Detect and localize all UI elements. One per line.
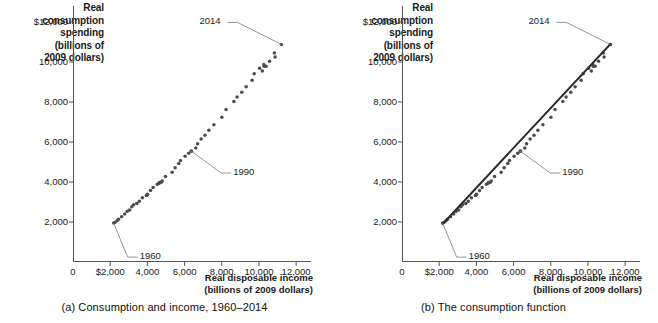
y-tick-label: 10,000	[335, 56, 397, 67]
consumption-function-line	[443, 44, 611, 224]
annotation-label-1990: 1990	[562, 166, 583, 177]
y-tick-label: 4,000	[6, 176, 68, 187]
panel-a: Real consumption spending (billions of 2…	[0, 0, 329, 323]
x-axis-label-a: Real disposable income (billions of 2009…	[113, 272, 313, 296]
y-tick-label: 6,000	[335, 136, 397, 147]
x-tick-label: 0	[70, 266, 75, 277]
annotation-label-1960: 1960	[469, 250, 490, 261]
y-tick-label: $12,000	[335, 16, 397, 27]
scatter-svg-a	[73, 6, 311, 262]
y-tick-label: 8,000	[6, 96, 68, 107]
y-tick-label: 10,000	[6, 56, 68, 67]
y-tick-label: 2,000	[6, 216, 68, 227]
x-axis-label-b: Real disposable income (billions of 2009…	[442, 272, 642, 296]
y-tick-label: $12,000	[6, 16, 68, 27]
annotation-leaders-b	[443, 22, 611, 257]
panel-b-caption: (b) The consumption function	[329, 301, 658, 313]
annotation-label-2014: 2014	[528, 15, 549, 26]
annotation-label-1960: 1960	[140, 250, 161, 261]
plot-area-a	[73, 6, 311, 262]
y-tick-label: 4,000	[335, 176, 397, 187]
figure-consumption-function: Real consumption spending (billions of 2…	[0, 0, 658, 323]
y-tick-label: 8,000	[335, 96, 397, 107]
plot-area-b	[402, 6, 640, 262]
annotation-label-2014: 2014	[199, 15, 220, 26]
y-tick-label: 6,000	[6, 136, 68, 147]
y-tick-label: 2,000	[335, 216, 397, 227]
panel-b: Real consumption spending (billions of 2…	[329, 0, 658, 323]
annotation-leaders-a	[114, 22, 282, 257]
data-points-a	[112, 43, 283, 225]
scatter-svg-b	[402, 6, 640, 262]
x-tick-label: 0	[399, 266, 404, 277]
annotation-label-1990: 1990	[233, 166, 254, 177]
panel-a-caption: (a) Consumption and income, 1960–2014	[0, 301, 329, 313]
